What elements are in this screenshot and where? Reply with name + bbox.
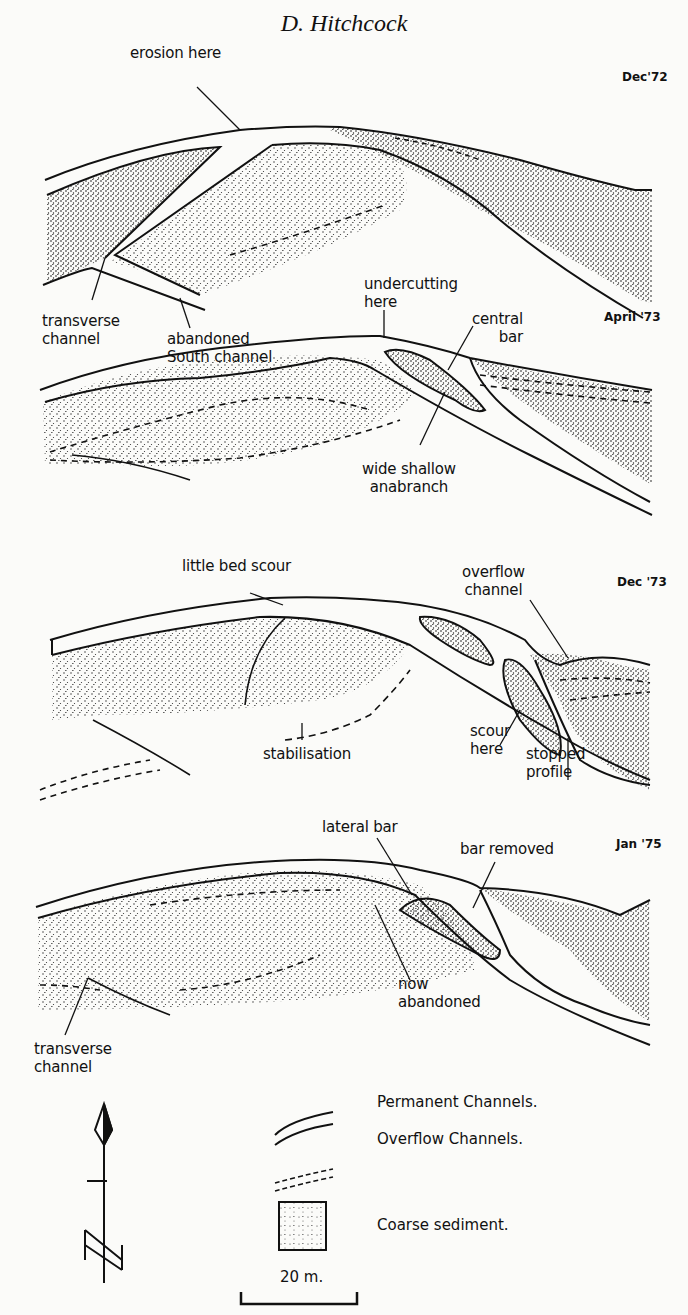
date-dec-72: Dec'72 — [622, 70, 668, 84]
label-bar-removed: bar removed — [460, 840, 554, 858]
scale-bar-label: 20 m. — [280, 1268, 323, 1286]
date-april-73: April '73 — [604, 310, 661, 324]
label-lateral-bar: lateral bar — [322, 818, 397, 836]
label-now-abandoned: now abandoned — [398, 975, 481, 1011]
legend-sediment-label: Coarse sediment. — [377, 1216, 509, 1234]
legend-sediment-swatch — [279, 1202, 326, 1250]
panel-jan-75 — [36, 838, 650, 1045]
label-stabilisation: stabilisation — [263, 745, 351, 763]
label-erosion-here: erosion here — [130, 44, 221, 62]
legend-permanent-label: Permanent Channels. — [377, 1093, 538, 1111]
date-dec-73: Dec '73 — [617, 575, 667, 589]
date-jan-75: Jan '75 — [616, 837, 662, 851]
scale-bar — [241, 1292, 357, 1304]
label-undercutting-here: undercutting here — [364, 275, 458, 311]
label-little-bed-scour: little bed scour — [182, 557, 291, 575]
label-wide-shallow-anabranch: wide shallow anabranch — [362, 460, 456, 496]
legend-permanent-symbol — [275, 1112, 333, 1145]
legend-overflow-symbol — [275, 1169, 333, 1191]
label-central-bar: central bar — [472, 310, 523, 346]
river-diagrams — [0, 0, 688, 1315]
label-overflow-channel: overflow channel — [462, 563, 525, 599]
north-arrow-icon — [85, 1104, 122, 1283]
label-abandoned-south-channel: abandoned South channel — [167, 330, 272, 366]
label-stopped-profile: stopped profile — [526, 745, 585, 781]
label-transverse-channel: transverse channel — [42, 312, 120, 348]
label-transverse-channel-2: transverse channel — [34, 1040, 112, 1076]
panel-april-73 — [40, 310, 652, 515]
legend-overflow-label: Overflow Channels. — [377, 1130, 523, 1148]
label-scour-here: scour here — [470, 722, 510, 758]
panel-dec-72 — [43, 87, 652, 328]
